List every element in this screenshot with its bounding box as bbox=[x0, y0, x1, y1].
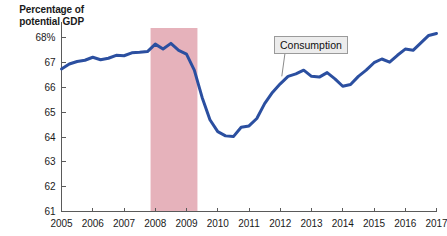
x-tick-label: 2016 bbox=[394, 218, 417, 229]
x-tick-label: 2007 bbox=[113, 218, 136, 229]
x-tick-label: 2013 bbox=[300, 218, 323, 229]
x-tick-label: 2011 bbox=[238, 218, 260, 229]
x-tick-label: 2009 bbox=[175, 218, 198, 229]
x-tick-label: 2010 bbox=[207, 218, 230, 229]
y-tick-label: 65 bbox=[44, 107, 56, 118]
recession-band bbox=[151, 28, 198, 212]
y-tick-label: 63 bbox=[44, 156, 56, 167]
y-axis-tick-group: 68%67666564636261 bbox=[35, 32, 65, 217]
x-tick-label: 2014 bbox=[332, 218, 355, 229]
x-tick-label: 2017 bbox=[425, 218, 447, 229]
recession-shading-group bbox=[151, 28, 198, 212]
x-tick-label: 2005 bbox=[50, 218, 73, 229]
consumption-callout-label: Consumption bbox=[274, 36, 348, 54]
callout-leader-line bbox=[282, 53, 285, 76]
y-tick-label: 68% bbox=[35, 32, 55, 43]
y-tick-label: 61 bbox=[44, 206, 56, 217]
x-tick-label: 2008 bbox=[144, 218, 167, 229]
y-tick-label: 62 bbox=[44, 181, 56, 192]
x-tick-label: 2006 bbox=[82, 218, 105, 229]
x-tick-label: 2012 bbox=[269, 218, 292, 229]
y-tick-label: 66 bbox=[44, 82, 56, 93]
y-tick-label: 64 bbox=[44, 132, 56, 143]
consumption-line bbox=[62, 33, 437, 136]
chart-container: Percentage of potential GDP 68%676665646… bbox=[0, 0, 447, 236]
line-chart-plot: 68%67666564636261 2005200620072008200920… bbox=[0, 0, 447, 236]
y-tick-label: 67 bbox=[44, 57, 56, 68]
data-series-group bbox=[62, 33, 437, 136]
x-tick-label: 2015 bbox=[363, 218, 386, 229]
x-axis-tick-group: 2005200620072008200920102011201220132014… bbox=[50, 208, 447, 229]
